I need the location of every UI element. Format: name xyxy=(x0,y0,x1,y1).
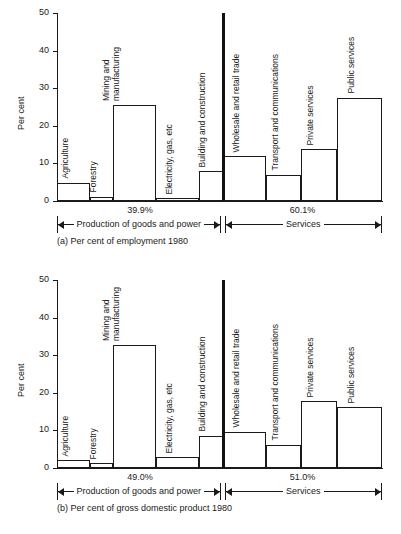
y-tick-20 xyxy=(53,393,57,394)
y-tick-label-20: 20 xyxy=(9,121,49,130)
bar-b-6 xyxy=(266,445,301,468)
bracket-arrow-r-icon xyxy=(375,488,381,496)
y-tick-10 xyxy=(53,163,57,164)
plot-area-b: 01020304050AgricultureForestryMining and… xyxy=(57,280,382,468)
y-tick-label-50: 50 xyxy=(9,275,49,284)
chart-employment-1980: Per cent 01020304050AgricultureForestryM… xyxy=(0,0,401,267)
bar-b-4 xyxy=(199,436,223,468)
y-axis-b xyxy=(57,280,58,468)
bar-label-a-6: Transport and communications xyxy=(270,54,280,170)
bar-label-b-2: Mining and manufacturing xyxy=(102,271,121,341)
bar-b-0 xyxy=(57,460,90,468)
bar-label-b-0: Agriculture xyxy=(60,416,70,457)
bar-b-8 xyxy=(337,407,382,468)
bracket-cap-r xyxy=(220,216,221,233)
bracket-production-a: Production of goods and power xyxy=(57,219,221,231)
bar-a-6 xyxy=(266,175,301,201)
x-axis-b xyxy=(57,468,383,469)
bar-label-b-6: Transport and communications xyxy=(270,324,280,440)
bracket-services-a: Services xyxy=(225,219,382,231)
bracket-arrow-l-icon xyxy=(58,221,64,229)
bracket-services-a-label: Services xyxy=(283,218,324,230)
bracket-arrow-r-icon xyxy=(214,221,220,229)
bracket-cap-r xyxy=(381,216,382,233)
y-tick-40 xyxy=(53,51,57,52)
bar-label-b-4: Building and construction xyxy=(198,337,208,432)
bracket-services-b-label: Services xyxy=(283,485,324,497)
bracket-services-b: Services xyxy=(225,486,382,498)
y-tick-label-40: 40 xyxy=(9,46,49,55)
group-pct-left-a: 39.9% xyxy=(57,205,223,215)
bar-a-3 xyxy=(156,198,199,201)
plot-area-a: 01020304050AgricultureForestryMining and… xyxy=(57,13,382,201)
bar-label-a-5: Wholesale and retail trade xyxy=(231,54,241,153)
y-tick-10 xyxy=(53,430,57,431)
bar-a-8 xyxy=(337,98,382,201)
bar-label-b-3: Electricity, gas, etc xyxy=(164,383,174,453)
bar-a-7 xyxy=(301,149,337,201)
x-axis-a xyxy=(57,201,383,202)
caption-b: (b) Per cent of gross domestic product 1… xyxy=(57,503,232,513)
bar-label-a-0: Agriculture xyxy=(60,138,70,179)
bar-label-a-3: Electricity, gas, etc xyxy=(164,124,174,194)
bracket-arrow-l-icon xyxy=(226,488,232,496)
bar-a-5 xyxy=(223,156,266,201)
bracket-arrow-l-icon xyxy=(226,221,232,229)
bar-b-1 xyxy=(90,463,113,468)
chart-gdp-1980: Per cent 01020304050AgricultureForestryM… xyxy=(0,267,401,534)
y-tick-label-0: 0 xyxy=(9,463,49,472)
y-tick-50 xyxy=(53,13,57,14)
bracket-arrow-r-icon xyxy=(214,488,220,496)
y-tick-label-0: 0 xyxy=(9,196,49,205)
bar-label-b-1: Forestry xyxy=(88,428,98,459)
y-tick-30 xyxy=(53,355,57,356)
bar-a-0 xyxy=(57,183,90,201)
y-tick-label-50: 50 xyxy=(9,8,49,17)
y-tick-0 xyxy=(53,468,57,469)
y-tick-label-20: 20 xyxy=(9,388,49,397)
bar-b-5 xyxy=(223,432,266,468)
bracket-cap-r xyxy=(381,483,382,500)
y-tick-40 xyxy=(53,318,57,319)
group-pct-right-a: 60.1% xyxy=(223,205,382,215)
group-divider-a xyxy=(222,13,225,201)
y-tick-label-10: 10 xyxy=(9,158,49,167)
bar-label-b-8: Public services xyxy=(346,346,356,403)
y-tick-0 xyxy=(53,201,57,202)
bracket-production-b: Production of goods and power xyxy=(57,486,221,498)
bar-b-2 xyxy=(113,345,156,468)
y-tick-50 xyxy=(53,280,57,281)
y-tick-label-40: 40 xyxy=(9,313,49,322)
bracket-production-a-label: Production of goods and power xyxy=(74,218,205,230)
y-tick-label-30: 30 xyxy=(9,83,49,92)
y-tick-20 xyxy=(53,126,57,127)
y-tick-30 xyxy=(53,88,57,89)
bar-label-a-4: Building and construction xyxy=(198,72,208,167)
bar-label-a-1: Forestry xyxy=(88,161,98,192)
y-tick-label-10: 10 xyxy=(9,425,49,434)
bar-a-1 xyxy=(90,197,113,202)
group-divider-b xyxy=(222,280,225,468)
y-axis-a xyxy=(57,13,58,201)
bracket-arrow-r-icon xyxy=(375,221,381,229)
group-pct-left-b: 49.0% xyxy=(57,472,223,482)
group-brackets-b: 49.0%51.0%Production of goods and powerS… xyxy=(57,472,383,522)
bar-b-3 xyxy=(156,457,199,468)
bar-b-7 xyxy=(301,401,337,468)
bar-a-2 xyxy=(113,105,156,201)
bar-label-b-5: Wholesale and retail trade xyxy=(231,329,241,428)
y-tick-label-30: 30 xyxy=(9,350,49,359)
group-pct-right-b: 51.0% xyxy=(223,472,382,482)
bar-label-a-2: Mining and manufacturing xyxy=(102,31,121,101)
bar-label-b-7: Private services xyxy=(306,337,316,397)
bar-label-a-7: Private services xyxy=(306,85,316,145)
group-brackets-a: 39.9%60.1%Production of goods and powerS… xyxy=(57,205,383,255)
bracket-cap-r xyxy=(220,483,221,500)
bracket-production-b-label: Production of goods and power xyxy=(74,485,205,497)
caption-a: (a) Per cent of employment 1980 xyxy=(57,236,188,246)
bracket-arrow-l-icon xyxy=(58,488,64,496)
bar-label-a-8: Public services xyxy=(346,37,356,94)
bar-a-4 xyxy=(199,171,223,201)
